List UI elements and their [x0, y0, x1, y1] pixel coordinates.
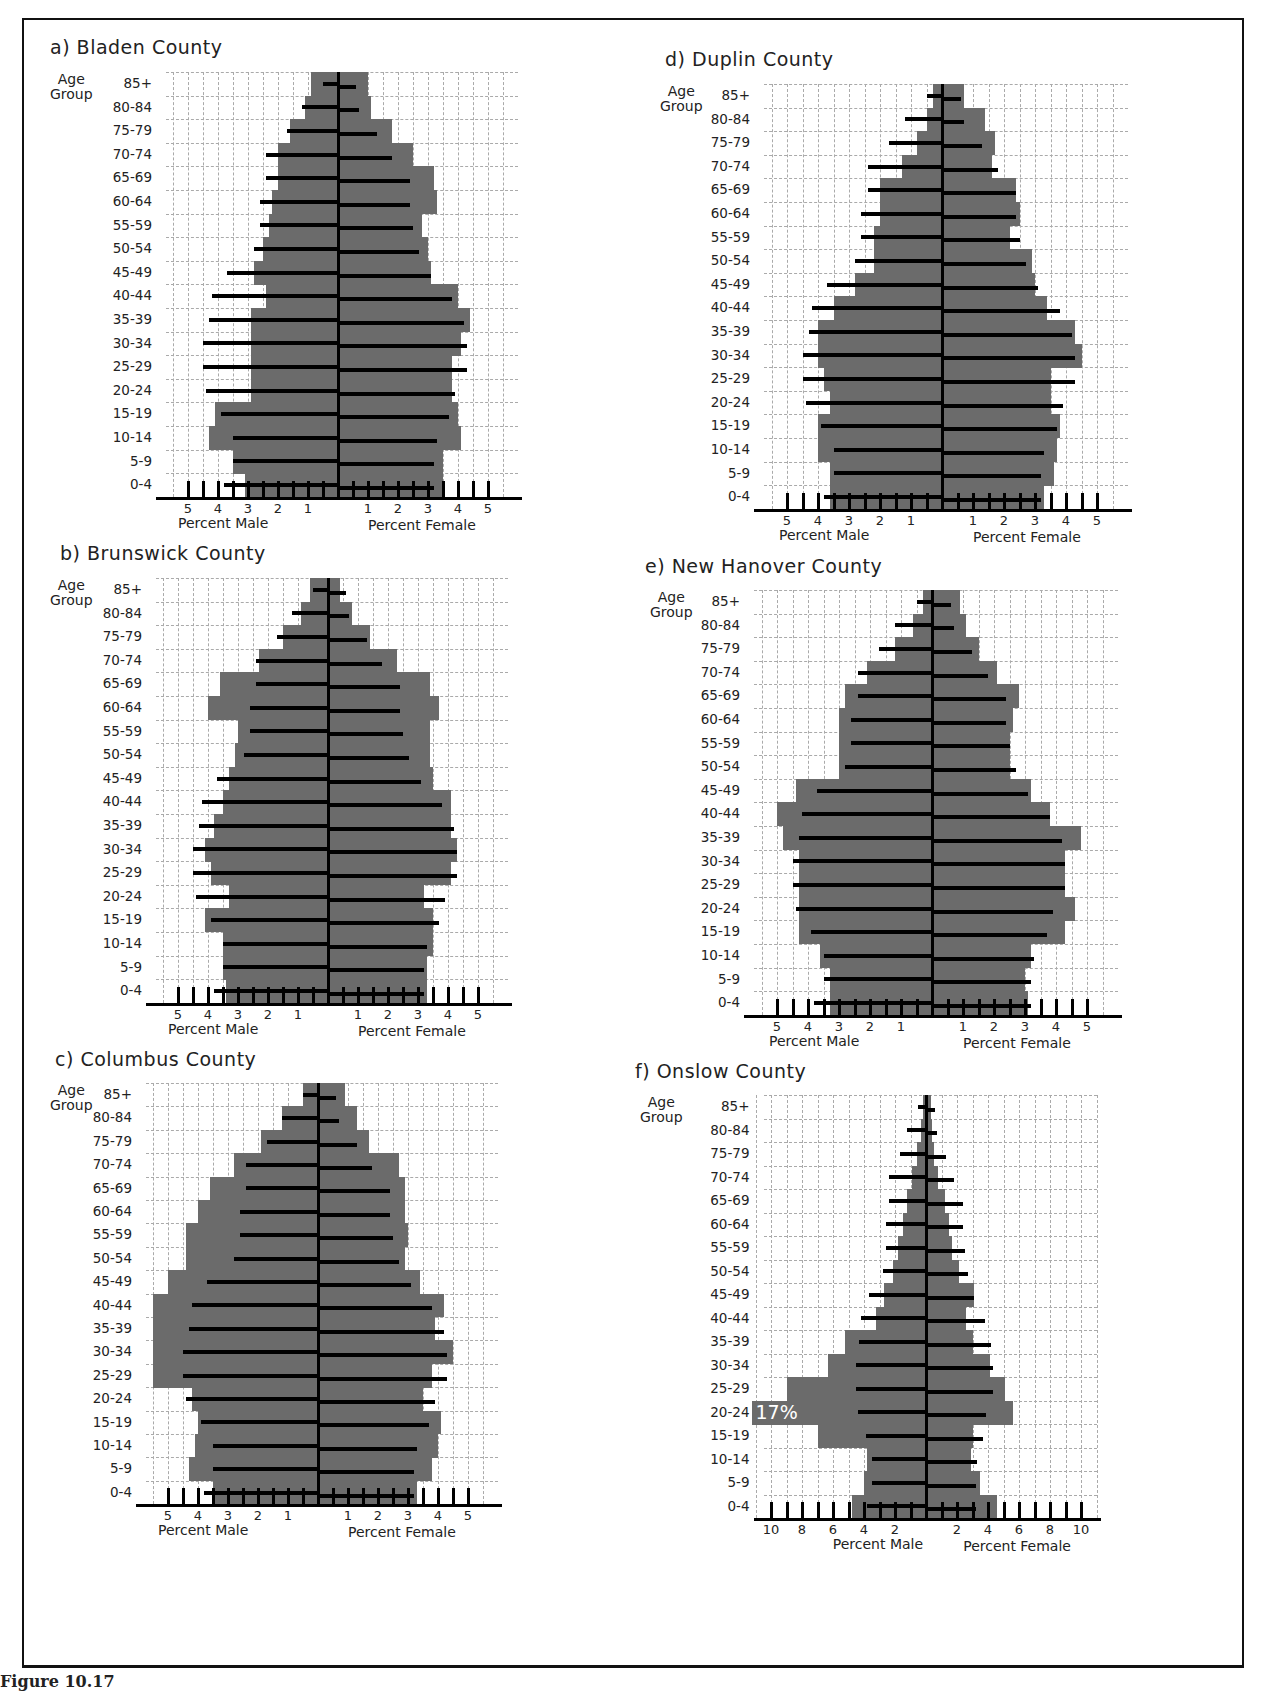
- x-tick: [212, 1488, 215, 1504]
- comparison-male-line: [845, 765, 932, 769]
- age-label: 60-64: [82, 699, 142, 715]
- comparison-male-line: [889, 1199, 926, 1203]
- age-label: 80-84: [72, 1109, 132, 1125]
- comparison-male-line: [821, 424, 942, 428]
- age-label: 45-49: [690, 1286, 750, 1302]
- x-tick: [352, 481, 355, 497]
- comparison-female-line: [942, 451, 1044, 455]
- age-label: 75-79: [82, 628, 142, 644]
- comparison-female-line: [926, 1272, 968, 1276]
- comparison-male-line: [254, 247, 338, 251]
- x-tick: [801, 1502, 804, 1518]
- x-tick: [832, 1502, 835, 1518]
- comparison-female-line: [942, 168, 998, 172]
- age-label: 75-79: [690, 134, 750, 150]
- comparison-male-line: [214, 989, 328, 993]
- age-label: 50-54: [690, 252, 750, 268]
- panel-title: a) Bladen County: [50, 36, 223, 58]
- age-label: 35-39: [690, 323, 750, 339]
- age-label: 15-19: [680, 923, 740, 939]
- comparison-female-line: [926, 1460, 977, 1464]
- x-tick: [332, 1488, 335, 1504]
- comparison-female-line: [932, 933, 1047, 937]
- x-tick: [242, 1488, 245, 1504]
- comparison-male-line: [246, 1163, 318, 1167]
- age-label: 70-74: [690, 1169, 750, 1185]
- age-label: 45-49: [82, 770, 142, 786]
- x-tick: [988, 493, 991, 509]
- comparison-male-line: [199, 824, 328, 828]
- x-tick-label: 3: [228, 1007, 248, 1022]
- age-label: 60-64: [690, 1216, 750, 1232]
- comparison-female-line: [932, 626, 954, 630]
- comparison-female-line: [338, 226, 413, 230]
- x-tick-label: 5: [1077, 1019, 1097, 1034]
- x-tick: [978, 999, 981, 1015]
- comparison-female-line: [328, 709, 400, 713]
- x-tick-label: 4: [808, 513, 828, 528]
- x-tick: [1081, 493, 1084, 509]
- age-label: 70-74: [680, 664, 740, 680]
- comparison-male-line: [186, 1397, 318, 1401]
- age-label: 35-39: [680, 829, 740, 845]
- x-tick: [910, 493, 913, 509]
- comparison-female-line: [318, 1236, 393, 1240]
- center-axis: [931, 590, 934, 1015]
- x-axis-title-male: Percent Male: [168, 1021, 258, 1037]
- x-tick-label: 5: [478, 501, 498, 516]
- x-tick: [487, 481, 490, 497]
- age-label: 40-44: [92, 287, 152, 303]
- age-label: 80-84: [690, 1122, 750, 1138]
- x-axis-title-male: Percent Male: [779, 527, 869, 543]
- comparison-female-line: [932, 980, 1031, 984]
- x-tick: [1018, 1502, 1021, 1518]
- comparison-female-line: [926, 1319, 985, 1323]
- x-tick: [1009, 999, 1012, 1015]
- comparison-female-line: [942, 474, 1041, 478]
- age-label: 20-24: [72, 1390, 132, 1406]
- x-tick: [972, 1502, 975, 1518]
- comparison-female-line: [338, 250, 419, 254]
- x-tick: [1049, 1502, 1052, 1518]
- x-tick: [807, 999, 810, 1015]
- age-label: 75-79: [72, 1133, 132, 1149]
- figure-caption: Figure 10.17: [0, 1672, 115, 1691]
- age-label: 65-69: [690, 181, 750, 197]
- comparison-female-line: [942, 286, 1038, 290]
- x-tick: [817, 493, 820, 509]
- center-axis: [925, 1095, 928, 1518]
- x-axis: [754, 509, 1132, 512]
- x-tick: [972, 493, 975, 509]
- age-label: 50-54: [82, 746, 142, 762]
- comparison-male-line: [917, 600, 933, 604]
- age-label: 55-59: [690, 229, 750, 245]
- age-label: 50-54: [690, 1263, 750, 1279]
- comparison-male-line: [824, 954, 933, 958]
- comparison-male-line: [277, 635, 328, 639]
- x-tick: [462, 987, 465, 1003]
- age-label: 80-84: [680, 617, 740, 633]
- comparison-male-line: [223, 942, 328, 946]
- x-tick: [282, 987, 285, 1003]
- x-tick: [467, 1488, 470, 1504]
- comparison-female-line: [328, 780, 421, 784]
- x-tick: [272, 1488, 275, 1504]
- age-label: 25-29: [690, 1380, 750, 1396]
- comparison-male-line: [886, 1246, 926, 1250]
- comparison-female-line: [932, 697, 1006, 701]
- x-tick: [477, 987, 480, 1003]
- age-label: 30-34: [690, 347, 750, 363]
- comparison-male-line: [809, 330, 942, 334]
- comparison-male-line: [266, 153, 338, 157]
- comparison-male-line: [323, 82, 338, 86]
- age-label: 40-44: [690, 299, 750, 315]
- comparison-male-line: [260, 200, 338, 204]
- comparison-male-line: [900, 1152, 926, 1156]
- x-tick: [776, 999, 779, 1015]
- x-tick: [941, 1502, 944, 1518]
- x-tick-label: 1: [963, 513, 983, 528]
- comparison-female-line: [328, 945, 427, 949]
- x-tick: [457, 481, 460, 497]
- comparison-female-line: [338, 297, 452, 301]
- age-label: 35-39: [82, 817, 142, 833]
